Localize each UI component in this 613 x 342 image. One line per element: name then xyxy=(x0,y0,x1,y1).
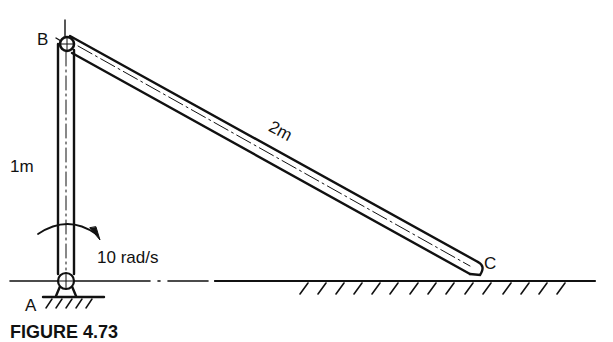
figure-caption: FIGURE 4.73 xyxy=(10,322,118,342)
label-angular-velocity: 10 rad/s xyxy=(97,249,158,266)
pin-support-a xyxy=(43,273,104,308)
ground-hatch-right xyxy=(300,283,565,294)
link-ab xyxy=(58,44,74,274)
angular-velocity-arrow-icon xyxy=(38,224,100,240)
label-point-a: A xyxy=(25,297,36,314)
label-link-ab-length: 1m xyxy=(10,158,34,175)
label-point-b: B xyxy=(37,31,48,48)
label-point-c: C xyxy=(484,255,496,272)
link-bc xyxy=(70,36,483,275)
